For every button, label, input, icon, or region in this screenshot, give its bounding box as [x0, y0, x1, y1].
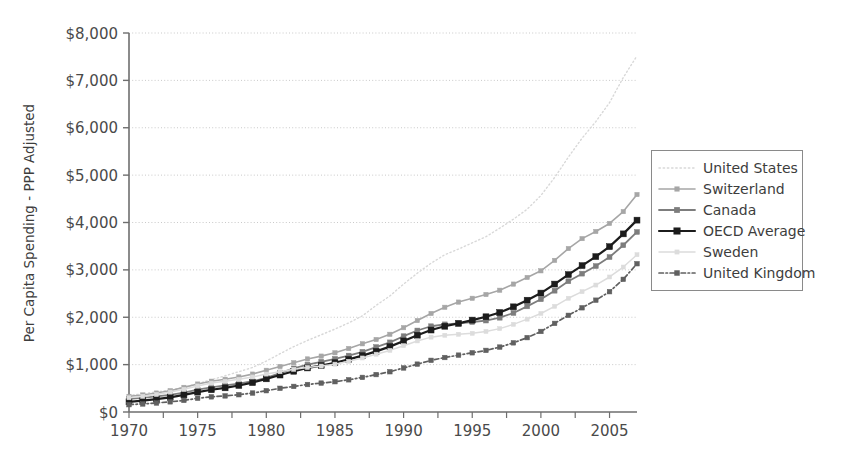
legend-label-switzerland: Switzerland — [703, 180, 785, 198]
svg-text:$7,000: $7,000 — [66, 72, 119, 90]
svg-text:$8,000: $8,000 — [66, 25, 119, 43]
legend-key-sweden — [657, 243, 697, 261]
svg-text:2005: 2005 — [590, 422, 628, 440]
svg-text:$6,000: $6,000 — [66, 119, 119, 137]
svg-text:2000: 2000 — [522, 422, 560, 440]
legend-item-canada[interactable]: Canada — [657, 199, 795, 220]
chart-legend: United States Switzerland Canada OECD Av… — [651, 150, 803, 291]
axis-ticks — [123, 33, 610, 418]
axes — [129, 33, 637, 412]
legend-label-oecd-average: OECD Average — [703, 222, 805, 240]
legend-key-oecd-average — [657, 222, 697, 240]
legend-label-united-states: United States — [703, 159, 798, 177]
legend-item-united-states[interactable]: United States — [657, 157, 795, 178]
svg-text:$5,000: $5,000 — [66, 167, 119, 185]
svg-text:1980: 1980 — [247, 422, 285, 440]
svg-text:$0: $0 — [99, 404, 118, 422]
svg-text:1970: 1970 — [110, 422, 148, 440]
svg-text:$2,000: $2,000 — [66, 309, 119, 327]
legend-item-united-kingdom[interactable]: United Kingdom — [657, 262, 795, 283]
svg-text:1975: 1975 — [179, 422, 217, 440]
x-axis-tick-labels: 19701975198019851990199520002005 — [110, 422, 629, 440]
svg-text:1995: 1995 — [453, 422, 491, 440]
svg-text:1985: 1985 — [316, 422, 354, 440]
y-axis-title: Per Capita Spending - PPP Adjusted — [21, 104, 37, 342]
svg-text:$4,000: $4,000 — [66, 214, 119, 232]
data-series — [126, 56, 640, 407]
legend-label-united-kingdom: United Kingdom — [703, 264, 815, 282]
legend-key-united-kingdom — [657, 264, 697, 282]
y-axis-tick-labels: $0$1,000$2,000$3,000$4,000$5,000$6,000$7… — [66, 25, 119, 422]
chart-figure: $0$1,000$2,000$3,000$4,000$5,000$6,000$7… — [0, 0, 865, 464]
legend-key-switzerland — [657, 180, 697, 198]
svg-text:1990: 1990 — [385, 422, 423, 440]
svg-text:$3,000: $3,000 — [66, 261, 119, 279]
legend-item-switzerland[interactable]: Switzerland — [657, 178, 795, 199]
svg-text:$1,000: $1,000 — [66, 356, 119, 374]
legend-item-sweden[interactable]: Sweden — [657, 241, 795, 262]
legend-label-sweden: Sweden — [703, 243, 758, 261]
legend-key-united-states — [657, 159, 697, 177]
legend-key-canada — [657, 201, 697, 219]
legend-label-canada: Canada — [703, 201, 756, 219]
legend-item-oecd-average[interactable]: OECD Average — [657, 220, 795, 241]
gridlines — [129, 33, 637, 365]
